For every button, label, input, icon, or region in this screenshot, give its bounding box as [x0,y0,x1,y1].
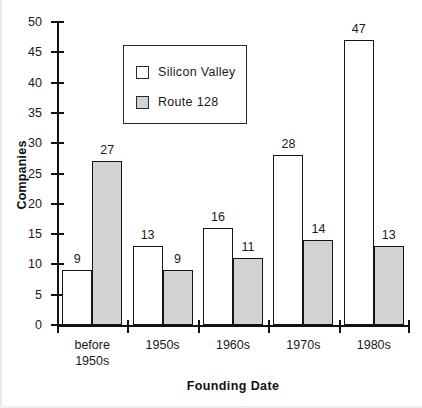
y-axis-tick [51,82,64,84]
x-axis-tick [339,320,341,333]
bar-value-label: 11 [224,241,272,254]
bar-value-label: 16 [194,211,242,224]
y-axis-tick-label: 0 [14,319,42,331]
bar-value-label: 28 [264,138,312,151]
category-label-line: 1950s [127,337,197,353]
y-axis-tick-label: 50 [14,16,42,28]
bar-route-128 [374,246,404,325]
legend-entry-silicon-valley: Silicon Valley [136,63,236,81]
y-axis-tick [51,21,64,23]
x-axis-tick [57,320,59,333]
legend-label-route-128: Route 128 [158,95,218,109]
bar-value-label: 13 [365,229,413,242]
x-axis-tick [127,320,129,333]
y-axis-tick [51,203,64,205]
bar-route-128 [92,161,122,325]
category-label-line: 1950s [57,353,127,369]
legend-swatch-icon-route-128 [136,96,149,109]
bar-silicon-valley [344,40,374,325]
legend-label-silicon-valley: Silicon Valley [158,65,236,79]
bar-route-128 [303,240,333,325]
legend-entry-route-128: Route 128 [136,93,218,111]
bar-route-128 [163,270,193,325]
y-axis-title: Companies [15,105,29,245]
legend-box: Silicon Valley Route 128 [123,45,247,124]
category-label-line: 1980s [339,337,409,353]
y-axis-tick-label: 5 [14,289,42,301]
bar-silicon-valley [62,270,92,325]
bar-value-label: 13 [124,229,172,242]
x-axis-tick [268,320,270,333]
x-axis-line [57,325,409,327]
legend-swatch-icon-silicon-valley [136,66,149,79]
y-axis-tick [51,51,64,53]
y-axis-line [57,22,59,327]
x-axis-tick [408,320,410,333]
bar-route-128 [233,258,263,325]
bar-chart-figure: 05101520253035404550 927139161128144713 … [0,0,422,408]
y-axis-tick [51,112,64,114]
y-axis-tick-label: 40 [14,77,42,89]
category-label-line: before [57,337,127,353]
category-label-line: 1970s [268,337,338,353]
bar-value-label: 27 [83,144,131,157]
y-axis-tick-label: 10 [14,258,42,270]
scan-edge-left [0,0,2,408]
bar-value-label: 14 [294,223,342,236]
category-label: 1980s [339,337,409,353]
category-label: 1970s [268,337,338,353]
bar-silicon-valley [273,155,303,325]
category-label: 1950s [127,337,197,353]
x-axis-title: Founding Date [57,379,409,393]
y-axis-tick-label: 45 [14,46,42,58]
category-label: before1950s [57,337,127,369]
y-axis-tick [51,142,64,144]
category-label-line: 1960s [198,337,268,353]
y-axis-tick [51,233,64,235]
bar-value-label: 9 [154,253,202,266]
x-axis-tick [198,320,200,333]
y-axis-tick [51,173,64,175]
bar-value-label: 47 [335,23,383,36]
category-label: 1960s [198,337,268,353]
